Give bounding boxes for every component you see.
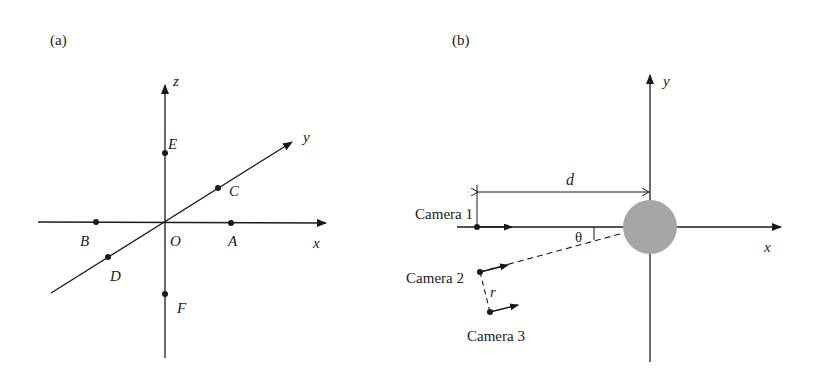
- x-axis-label: x: [763, 239, 771, 255]
- camera-3-label: Camera 3: [467, 328, 525, 344]
- label-e: E: [167, 136, 177, 152]
- label-a: A: [227, 233, 238, 249]
- panel-b: (b) d Camera 1 θ Camera 2 r Camera 3 x y: [406, 32, 781, 362]
- y-axis-label: y: [301, 129, 310, 145]
- angle-label: θ: [575, 229, 582, 245]
- point-d: [105, 254, 111, 260]
- label-c: C: [229, 183, 240, 199]
- camera-1-label: Camera 1: [415, 206, 473, 222]
- y-axis: [51, 142, 292, 293]
- camera-2-label: Camera 2: [406, 270, 464, 286]
- point-a: [228, 220, 234, 226]
- label-origin: O: [170, 233, 181, 249]
- panel-b-label: (b): [452, 32, 470, 49]
- distance-label: d: [566, 171, 575, 188]
- panel-a: (a) z y x E C B O A D F: [38, 32, 326, 358]
- point-f: [162, 291, 168, 297]
- offset-line: [480, 272, 490, 312]
- point-b: [93, 219, 99, 225]
- label-f: F: [176, 300, 187, 316]
- x-axis: [38, 222, 326, 223]
- label-d: D: [109, 268, 121, 284]
- figure-canvas: (a) z y x E C B O A D F (b) d Camera 1: [0, 0, 821, 385]
- z-axis-label: z: [172, 73, 179, 89]
- camera-3-direction-arrow: [490, 305, 518, 312]
- point-c: [215, 185, 221, 191]
- label-b: B: [80, 233, 89, 249]
- y-axis-label: y: [661, 73, 670, 89]
- offset-label: r: [490, 284, 496, 300]
- camera-2-direction-arrow: [480, 265, 508, 272]
- panel-a-label: (a): [50, 32, 67, 49]
- target-object: [623, 200, 677, 254]
- x-axis-label: x: [312, 235, 320, 251]
